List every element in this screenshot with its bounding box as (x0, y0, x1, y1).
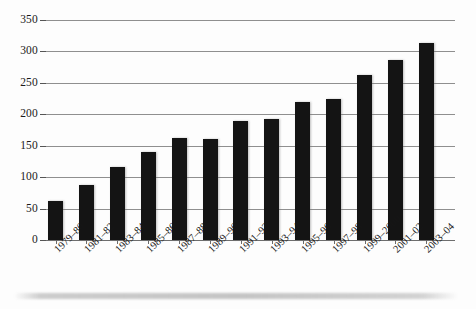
bar (264, 119, 279, 240)
y-tick-label-300: 300 (0, 45, 38, 57)
y-tick-mark-150 (40, 146, 46, 147)
y-tick-mark-50 (40, 209, 46, 210)
y-tick-label-350: 350 (0, 14, 38, 26)
y-tick-mark-350 (40, 20, 46, 21)
bar-chart: 050100150200250300350 1979–801981–821983… (0, 0, 476, 309)
y-tick-mark-100 (40, 177, 46, 178)
y-tick-mark-0 (40, 240, 46, 241)
gridline-350 (45, 20, 455, 21)
y-tick-label-200: 200 (0, 108, 38, 120)
y-tick-mark-250 (40, 83, 46, 84)
gridline-300 (45, 51, 455, 52)
bar (419, 43, 434, 240)
bar (233, 121, 248, 240)
y-tick-label-0: 0 (0, 234, 38, 246)
bar (357, 75, 372, 240)
page-scan-smudge (14, 293, 458, 299)
y-tick-mark-300 (40, 51, 46, 52)
plot-area: 050100150200250300350 1979–801981–821983… (0, 0, 476, 309)
y-tick-label-100: 100 (0, 171, 38, 183)
bar (295, 102, 310, 240)
bar (326, 99, 341, 240)
y-tick-label-50: 50 (0, 203, 38, 215)
y-tick-label-150: 150 (0, 140, 38, 152)
y-tick-label-250: 250 (0, 77, 38, 89)
y-tick-mark-200 (40, 114, 46, 115)
bar (48, 201, 63, 240)
